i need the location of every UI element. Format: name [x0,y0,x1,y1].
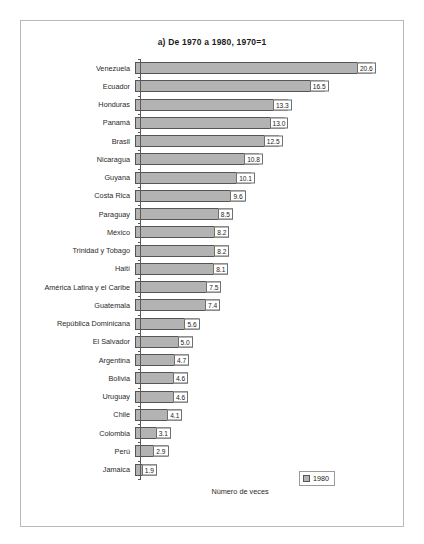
axis-tick [138,351,141,352]
bar [135,99,288,111]
axis-tick [138,278,141,279]
bar-category-label: Perú [21,447,135,456]
axis-tick [138,442,141,443]
bar-value-label: 13.0 [270,117,289,128]
bar-category-label: Uruguay [21,392,135,401]
axis-tick [138,406,141,407]
axis-tick [138,96,141,97]
bar-track: 5.6 [135,315,405,333]
axis-tick [138,150,141,151]
bar-category-label: Argentina [21,356,135,365]
bar-category-label: Trinidad y Tobago [21,246,135,255]
x-axis-label: Número de veces [140,487,340,496]
bar [135,117,285,129]
bar-row: Honduras13.3 [21,96,405,114]
bar-value-label: 7.4 [205,300,220,311]
axis-tick [138,369,141,370]
axis-tick [138,223,141,224]
axis-tick [138,59,141,60]
bar-row: República Dominicana5.6 [21,315,405,333]
bar-row: México8.2 [21,223,405,241]
axis-tick [138,333,141,334]
bar-category-label: América Latina y el Caribe [21,283,135,292]
bar-category-label: México [21,228,135,237]
bar-row: Paraguay8.5 [21,205,405,223]
bar-track: 4.6 [135,369,405,387]
bar-track: 20.6 [135,59,405,77]
bar-track: 2.9 [135,442,405,460]
axis-tick [138,77,141,78]
bar-value-label: 8.1 [213,263,228,274]
bar-category-label: Venezuela [21,64,135,73]
bar-track: 1.9 [135,461,405,479]
bar-row: Jamaica1.9 [21,461,405,479]
bar-row: Colombia3.1 [21,424,405,442]
axis-tick [138,296,141,297]
plot-area: Venezuela20.6Ecuador16.5Honduras13.3Pana… [21,59,405,479]
bar-row: Trinidad y Tobago8.2 [21,242,405,260]
bar-value-label: 5.6 [184,318,199,329]
bar-value-label: 1.9 [142,464,157,475]
bar [135,190,245,202]
bar-track: 13.3 [135,96,405,114]
bar-track: 13.0 [135,114,405,132]
bar-category-label: El Salvador [21,337,135,346]
bar-value-label: 16.5 [310,81,329,92]
bar-value-label: 20.6 [357,63,376,74]
bar-value-label: 2.9 [153,446,168,457]
axis-tick [138,260,141,261]
axis-tick [138,169,141,170]
bar-track: 8.5 [135,205,405,223]
legend-label: 1980 [313,474,329,483]
bar-track: 10.1 [135,169,405,187]
bar-track: 3.1 [135,424,405,442]
bar-value-label: 13.3 [273,99,292,110]
chart-legend: 1980 [299,471,335,486]
axis-tick [138,187,141,188]
chart-title: a) De 1970 a 1980, 1970=1 [21,37,403,47]
bar-track: 4.1 [135,406,405,424]
bar-row: El Salvador5.0 [21,333,405,351]
bar-category-label: Guatemala [21,301,135,310]
axis-tick [138,205,141,206]
bar-track: 7.4 [135,296,405,314]
bar-row: Costa Rica9.6 [21,187,405,205]
bar-row: Chile4.1 [21,406,405,424]
bar-value-label: 4.6 [173,373,188,384]
bar [135,80,325,92]
bar-row: Bolivia4.6 [21,369,405,387]
bar-track: 9.6 [135,187,405,205]
bar-value-label: 8.5 [218,209,233,220]
bar-category-label: Paraguay [21,210,135,219]
bar-value-label: 4.7 [174,355,189,366]
bar-row: Venezuela20.6 [21,59,405,77]
bar-track: 4.6 [135,388,405,406]
value-axis [140,59,141,479]
axis-tick [138,424,141,425]
bar [135,62,372,74]
bar [135,135,279,147]
bar-value-label: 4.6 [173,391,188,402]
bar-value-label: 3.1 [156,428,171,439]
bar-value-label: 9.6 [230,190,245,201]
bar-row: Guyana10.1 [21,169,405,187]
bar-row: Argentina4.7 [21,351,405,369]
axis-tick [138,479,141,480]
bar-row: Perú2.9 [21,442,405,460]
bar-row: América Latina y el Caribe7.5 [21,278,405,296]
bar-row: Guatemala7.4 [21,296,405,314]
bar-category-label: Costa Rica [21,191,135,200]
bar-value-label: 8.2 [214,245,229,256]
bar-category-label: Ecuador [21,82,135,91]
bar-row: Panamá13.0 [21,114,405,132]
bar-value-label: 4.1 [167,409,182,420]
bar-value-label: 10.8 [244,154,263,165]
legend-swatch-icon [303,475,310,482]
axis-tick [138,132,141,133]
bar-category-label: Haití [21,264,135,273]
bar-value-label: 8.2 [214,227,229,238]
bar-category-label: Guyana [21,173,135,182]
axis-tick [138,242,141,243]
axis-tick [138,114,141,115]
bar-row: Ecuador16.5 [21,77,405,95]
